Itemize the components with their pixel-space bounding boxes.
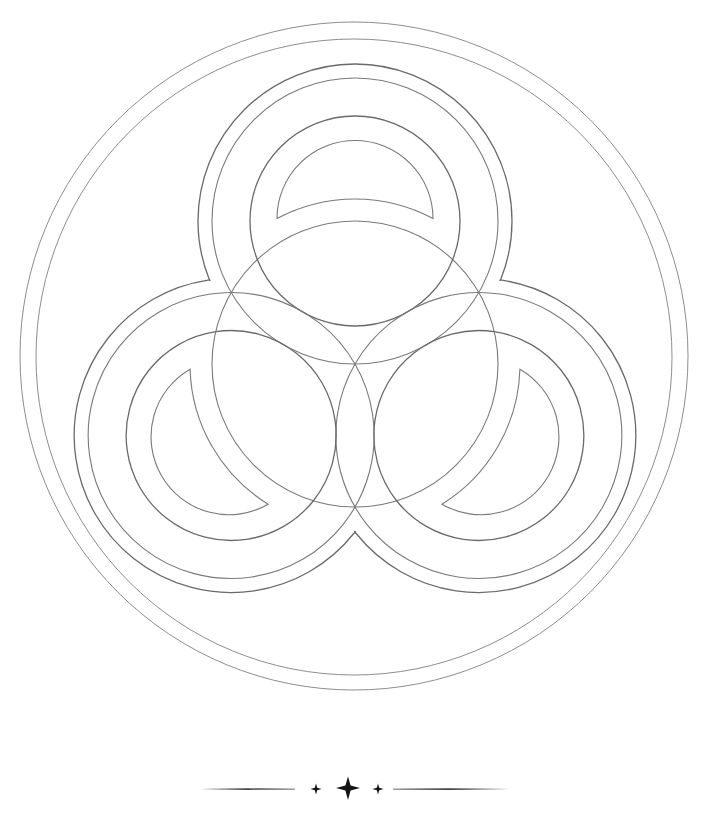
divider-right-line xyxy=(393,788,510,790)
ornamental-divider xyxy=(200,777,510,801)
star-small-left-icon xyxy=(311,784,322,795)
star-small-right-icon xyxy=(373,784,384,795)
geometric-drawing xyxy=(0,0,707,814)
divider-left-line xyxy=(200,788,295,790)
lobe-crescent xyxy=(277,141,433,219)
outer-circle xyxy=(20,22,688,690)
outer-border xyxy=(20,22,688,690)
inner-border-circle xyxy=(36,39,672,675)
star-large-center-icon xyxy=(336,777,360,801)
